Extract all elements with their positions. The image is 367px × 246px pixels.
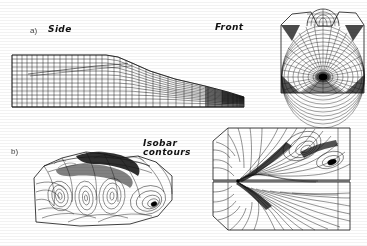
side-view-label: Side bbox=[48, 25, 72, 34]
surface-isobar-contours bbox=[34, 152, 172, 226]
technical-figure bbox=[0, 0, 367, 246]
front-view-label: Front bbox=[215, 23, 244, 32]
isobar-contours-label: Isobarcontours bbox=[143, 139, 191, 158]
isobar-label-line2: contours bbox=[143, 148, 191, 157]
plane-isobar-contours bbox=[213, 126, 350, 230]
panel-b-tag: b) bbox=[11, 147, 18, 156]
panel-a-tag: a) bbox=[30, 26, 37, 35]
